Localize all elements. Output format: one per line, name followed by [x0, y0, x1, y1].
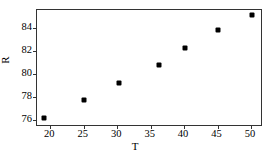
scatter-chart: 7678808284 20253035404550 R T [0, 0, 270, 158]
data-point [182, 45, 187, 50]
y-axis-tick-label: 78 [10, 91, 32, 102]
y-axis-title: R [0, 56, 11, 63]
y-axis-tick-label: 82 [10, 45, 32, 56]
data-point [216, 27, 221, 32]
data-point [249, 12, 254, 17]
y-axis-tick [33, 28, 37, 29]
x-axis-tick-label: 25 [70, 129, 96, 140]
x-axis-tick-label: 50 [237, 129, 263, 140]
data-point [157, 63, 162, 68]
y-axis-tick-label: 80 [10, 68, 32, 79]
y-axis-tick [33, 120, 37, 121]
plot-area [36, 9, 262, 126]
y-axis-tick-label: 84 [10, 22, 32, 33]
y-axis-tick [33, 51, 37, 52]
data-point [41, 116, 46, 121]
y-axis-tick [33, 74, 37, 75]
x-axis-tick-label: 45 [204, 129, 230, 140]
y-axis-tick [33, 97, 37, 98]
x-axis-tick-label: 30 [103, 129, 129, 140]
x-axis-title: T [0, 141, 270, 152]
data-point [117, 81, 122, 86]
data-point [82, 97, 87, 102]
x-axis-tick-label: 35 [137, 129, 163, 140]
x-axis-tick-label: 40 [170, 129, 196, 140]
y-axis-tick-label: 76 [10, 114, 32, 125]
x-axis-tick-label: 20 [36, 129, 62, 140]
